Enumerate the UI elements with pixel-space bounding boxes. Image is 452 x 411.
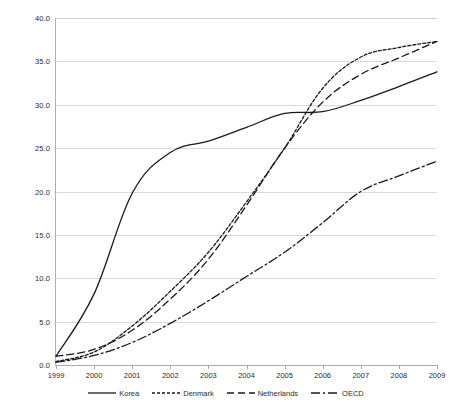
legend-label: OECD [342,389,364,398]
series-lines [0,0,452,411]
legend-label: Denmark [183,389,213,398]
legend-item-korea[interactable]: Korea [88,389,139,398]
legend-swatch-denmark-icon [152,389,180,397]
series-line-denmark [56,41,437,361]
chart-container: 0.05.010.015.020.025.030.035.040.0 19992… [0,0,452,411]
legend-item-netherlands[interactable]: Netherlands [227,389,298,398]
legend-item-oecd[interactable]: OECD [311,389,364,398]
legend-swatch-korea-icon [88,389,116,397]
series-line-korea [56,72,437,357]
series-line-oecd [56,161,437,362]
series-line-netherlands [56,41,437,356]
chart-legend: KoreaDenmarkNetherlandsOECD [0,386,452,400]
legend-swatch-netherlands-icon [227,389,255,397]
legend-label: Netherlands [258,389,298,398]
legend-item-denmark[interactable]: Denmark [152,389,213,398]
legend-label: Korea [119,389,139,398]
legend-swatch-oecd-icon [311,389,339,397]
